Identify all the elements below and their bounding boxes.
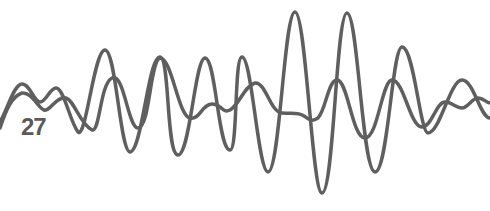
number-label: 27: [21, 115, 46, 139]
waveform-graphic: [0, 0, 490, 211]
waveform-illustration: 27: [0, 0, 490, 211]
